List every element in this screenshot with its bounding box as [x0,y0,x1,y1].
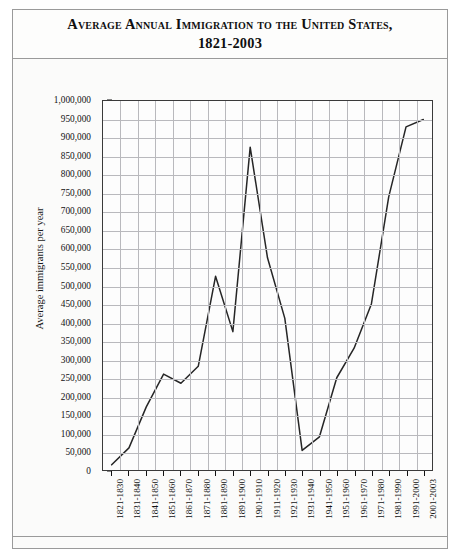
gridline-vertical [364,101,365,470]
y-axis-tick-label: 50,000 [65,447,91,457]
y-axis-tick-label: 850,000 [61,151,91,161]
x-axis-tick-label: 1901-1910 [254,479,264,519]
y-axis-tick-label: 450,000 [61,299,91,309]
x-axis-tick-mark [198,471,199,476]
x-axis-tick-label: 1871-1880 [202,479,212,519]
y-axis-tick-label: 600,000 [61,243,91,253]
gridline-vertical [382,101,383,470]
gridline-vertical [417,101,418,470]
chart-figure: Average Annual Immigration to the United… [12,9,448,549]
x-axis-tick-mark [163,471,164,476]
x-axis-tick-label: 1831-1840 [132,479,142,519]
gridline-vertical [190,101,191,470]
y-axis-tick-labels: 1,000,000950,000900,000850,000800,000750… [23,59,97,479]
gridline-vertical [155,101,156,470]
y-axis-tick-label: 0 [86,466,91,476]
x-axis-tick-label: 1961-1970 [359,479,369,519]
y-axis-tick-label: 100,000 [61,429,91,439]
gridline-vertical [399,101,400,470]
y-axis-tick-label: 700,000 [61,206,91,216]
x-axis-tick-label: 1941-1950 [324,479,334,519]
x-axis-tick-mark [146,471,147,476]
gridline-vertical [312,101,313,470]
x-axis-tick-label: 1951-1960 [341,479,351,519]
title-block: Average Annual Immigration to the United… [13,10,447,59]
x-axis-tick-mark [180,471,181,476]
x-axis-tick-mark [250,471,251,476]
x-axis-tick-mark [355,471,356,476]
figure-bottom-rule [13,536,447,537]
x-axis-tick-label: 1981-1990 [393,479,403,519]
y-axis-tick-label: 750,000 [61,188,91,198]
y-axis-tick-label: 150,000 [61,410,91,420]
y-axis-tick-label: 400,000 [61,318,91,328]
gridline-vertical [260,101,261,470]
gridline-vertical [242,101,243,470]
y-axis-tick-label: 1,000,000 [54,95,91,105]
x-axis-tick-label: 1881-1890 [219,479,229,519]
gridline-vertical [329,101,330,470]
x-axis-tick-label: 1971-1980 [376,479,386,519]
x-axis-tick-label: 1991-2000 [411,479,421,519]
x-axis-tick-mark [111,471,112,476]
x-axis-tick-mark [233,471,234,476]
y-axis-tick-label: 350,000 [61,336,91,346]
x-axis-tick-label: 2001-2003 [428,479,438,519]
chart-title: Average Annual Immigration to the United… [57,15,402,53]
y-axis-tick-label: 300,000 [61,355,91,365]
gridline-vertical [120,101,121,470]
x-axis-tick-label: 1861-1870 [184,479,194,519]
y-axis-tick-label: 500,000 [61,281,91,291]
y-axis-tick-label: 250,000 [61,373,91,383]
x-axis-tick-mark [215,471,216,476]
gridline-vertical [347,101,348,470]
y-axis-tick-label: 900,000 [61,132,91,142]
gridline-vertical [208,101,209,470]
x-axis-tick-mark [389,471,390,476]
x-axis-tick-label: 1891-1900 [237,479,247,519]
x-axis-tick-mark [424,471,425,476]
gridline-vertical [225,101,226,470]
x-axis-tick-mark [268,471,269,476]
gridline-vertical [138,101,139,470]
x-axis-tick-mark [337,471,338,476]
x-axis-tick-mark [128,471,129,476]
chart-grid-panel [102,100,433,471]
y-axis-tick-label: 950,000 [61,114,91,124]
gridline-vertical [173,101,174,470]
y-axis-tick-label: 200,000 [61,392,91,402]
y-axis-tick-label: 800,000 [61,169,91,179]
x-axis-tick-label: 1841-1850 [150,479,160,519]
x-axis-tick-label: 1851-1860 [167,479,177,519]
plot-area: Average immigrants per year 1,000,000950… [13,59,447,548]
x-axis-tick-mark [372,471,373,476]
x-axis-tick-mark [320,471,321,476]
x-axis-tick-label: 1821-1830 [115,479,125,519]
x-axis-tick-label: 1911-1920 [272,479,282,518]
y-axis-tick-label: 550,000 [61,262,91,272]
x-axis-tick-mark [285,471,286,476]
x-axis-tick-label: 1931-1940 [306,479,316,519]
x-axis-tick-label: 1921-1930 [289,479,299,519]
x-axis-tick-mark [407,471,408,476]
gridline-vertical [277,101,278,470]
gridline-vertical [295,101,296,470]
x-axis-tick-mark [302,471,303,476]
y-axis-tick-label: 650,000 [61,225,91,235]
